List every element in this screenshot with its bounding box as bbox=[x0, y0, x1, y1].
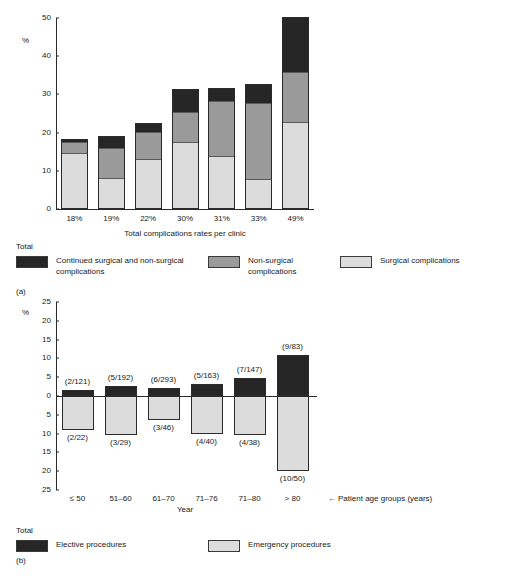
figure-b-bar-emergency bbox=[277, 396, 309, 471]
figure-b-y-tick-mark bbox=[56, 320, 59, 321]
figure-b-y-tick-mark bbox=[56, 490, 59, 491]
figure-b-y-tick-mark bbox=[56, 339, 59, 340]
figure-b-bar-label-elective: (2/121) bbox=[65, 378, 90, 386]
figure-b-x-tick-label: ≤ 50 bbox=[70, 495, 86, 503]
figure-b-bar-emergency bbox=[234, 396, 266, 435]
figure-b-y-tick-label: 20 bbox=[42, 467, 56, 475]
figure-b-x-tick-label: 71–76 bbox=[195, 495, 217, 503]
figure-b-age-groups-annotation: ←Patient age groups (years) bbox=[328, 495, 432, 503]
figure-b-y-tick-label: 5 bbox=[47, 373, 56, 381]
figure-b-bar-emergency bbox=[191, 396, 223, 434]
legend-swatch-emergency-procedures bbox=[208, 540, 240, 552]
figure-b-bar-label-elective: (7/147) bbox=[237, 366, 262, 374]
figure-b-bar-label-emergency: (3/29) bbox=[110, 439, 131, 447]
legend-label-non-surgical: Non-surgical complications bbox=[248, 256, 333, 277]
figure-b-legend-item-emergency-procedures: Emergency procedures bbox=[208, 540, 331, 552]
figure-b-y-tick-label: 0 bbox=[47, 392, 56, 400]
legend-label-continued-surgical-and-non-surgical: Continued surgical and non-surgical comp… bbox=[56, 256, 206, 277]
figure-b-bar-label-elective: (6/293) bbox=[151, 376, 176, 384]
figure-a-panel-tag: (a) bbox=[16, 288, 26, 296]
figure-b-y-tick-mark bbox=[56, 377, 59, 378]
figure-b-bar-emergency bbox=[105, 396, 137, 435]
figure-b-x-axis-title: Year bbox=[177, 505, 193, 514]
figure-b-x-tick-label: 51–60 bbox=[109, 495, 131, 503]
figure-b-y-tick-mark bbox=[56, 471, 59, 472]
figure-b-y-tick-mark bbox=[56, 452, 59, 453]
legend-label-surgical: Surgical complications bbox=[380, 256, 460, 267]
figure-b-legend-item-elective-procedures: Elective procedures bbox=[16, 540, 126, 552]
figure-b-bar-label-elective: (9/83) bbox=[282, 343, 303, 351]
figure-b-y-tick-label: 10 bbox=[42, 430, 56, 438]
figure-b-y-tick-label: 25 bbox=[42, 298, 56, 306]
figure-a-legend-item-non-surgical: Non-surgical complications bbox=[208, 256, 333, 277]
figure-b-legend-total-label: Total bbox=[16, 527, 33, 535]
legend-label-emergency-procedures: Emergency procedures bbox=[248, 540, 331, 551]
figure-b-bar-elective bbox=[191, 384, 223, 396]
figure-b-y-tick-label: 5 bbox=[47, 411, 56, 419]
figure-b-bar-label-emergency: (4/40) bbox=[196, 438, 217, 446]
figure-b-y-tick-mark bbox=[56, 302, 59, 303]
figure-b-y-tick-label: 15 bbox=[42, 448, 56, 456]
figure-b-y-tick-mark bbox=[56, 414, 59, 415]
figure-b-x-tick-label: 61–70 bbox=[152, 495, 174, 503]
legend-swatch-elective-procedures bbox=[16, 540, 48, 552]
figure-b-bar-label-emergency: (4/38) bbox=[239, 439, 260, 447]
figure-b-bar-label-elective: (5/192) bbox=[108, 374, 133, 382]
figure-b-bar-label-emergency: (3/46) bbox=[153, 424, 174, 432]
figure-b-legend: Total Elective proceduresEmergency proce… bbox=[0, 527, 514, 567]
figure-b-bar-label-emergency: (10/50) bbox=[280, 475, 305, 483]
figure-b-panel-tag: (b) bbox=[16, 557, 26, 565]
figure-b-x-tick-label: 71–80 bbox=[238, 495, 260, 503]
figure-a-legend-item-surgical: Surgical complications bbox=[340, 256, 460, 268]
figure-b-bar-elective bbox=[277, 355, 309, 396]
figure-b-bar-elective bbox=[148, 388, 180, 396]
figure-b-bar-label-elective: (5/163) bbox=[194, 372, 219, 380]
figure-b-y-tick-label: 15 bbox=[42, 336, 56, 344]
legend-swatch-continued-surgical-and-non-surgical bbox=[16, 256, 48, 268]
figure-b-y-tick-mark bbox=[56, 358, 59, 359]
figure-b-bar-label-emergency: (2/22) bbox=[67, 434, 88, 442]
legend-swatch-surgical bbox=[340, 256, 372, 268]
figure-b-y-tick-mark bbox=[56, 396, 59, 397]
figure-b-plot-area: 0510152025510152025(2/121)(2/22)≤ 50(5/1… bbox=[56, 302, 314, 490]
figure-b-bar-emergency bbox=[148, 396, 180, 420]
legend-label-elective-procedures: Elective procedures bbox=[56, 540, 126, 551]
figure-b-y-tick-label: 10 bbox=[42, 354, 56, 362]
figure-a-legend: Total Continued surgical and non-surgica… bbox=[0, 243, 514, 283]
figure-a-legend-total-label: Total bbox=[16, 243, 33, 251]
figure-b-x-tick-label: > 80 bbox=[285, 495, 301, 503]
figure-a-x-axis-title: Total complications rates per clinic bbox=[124, 229, 245, 238]
left-arrow-icon: ← bbox=[328, 495, 336, 503]
figure-b-bar-elective bbox=[234, 378, 266, 396]
figure-b-y-tick-mark bbox=[56, 433, 59, 434]
figure-b-y-tick-label: 25 bbox=[42, 486, 56, 494]
figure-b-procedure-rates: % 0510152025510152025(2/121)(2/22)≤ 50(5… bbox=[0, 0, 514, 230]
figure-b-bar-emergency bbox=[62, 396, 94, 430]
legend-swatch-non-surgical bbox=[208, 256, 240, 268]
figure-a-legend-item-continued-surgical-and-non-surgical: Continued surgical and non-surgical comp… bbox=[16, 256, 206, 277]
figure-b-y-unit-label: % bbox=[22, 308, 29, 317]
figure-b-annotation-text: Patient age groups (years) bbox=[338, 494, 432, 503]
figure-b-y-tick-label: 20 bbox=[42, 317, 56, 325]
figure-b-bar-elective bbox=[105, 386, 137, 396]
